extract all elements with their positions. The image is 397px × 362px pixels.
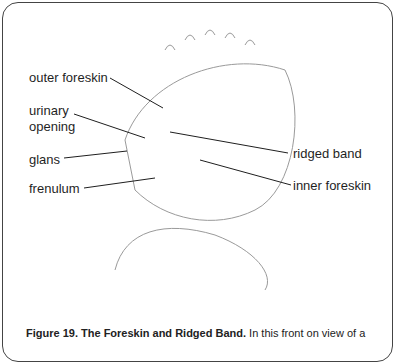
caption-text: In this front on view of a <box>246 327 365 339</box>
label-urinary-opening-line1: urinary <box>29 103 69 118</box>
label-glans: glans <box>29 152 60 167</box>
label-ridged-band: ridged band <box>293 146 362 161</box>
label-urinary-opening-line2: opening <box>29 119 75 134</box>
anatomical-illustration-placeholder <box>105 20 305 290</box>
label-inner-foreskin: inner foreskin <box>293 178 371 193</box>
caption-title: Figure 19. The Foreskin and Ridged Band. <box>26 327 246 339</box>
label-outer-foreskin: outer foreskin <box>29 70 108 85</box>
label-frenulum: frenulum <box>29 181 80 196</box>
figure-caption: Figure 19. The Foreskin and Ridged Band.… <box>26 327 365 339</box>
